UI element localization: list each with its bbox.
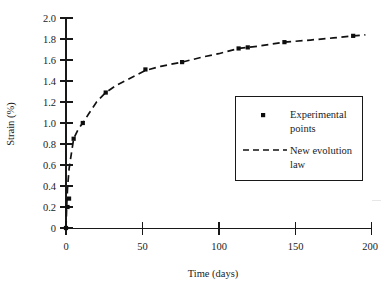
data-point-marker (282, 40, 286, 44)
data-point-marker (104, 90, 108, 94)
legend-label-evolution-line1: New evolution (290, 145, 353, 156)
y-tick-label: 1.2 (43, 97, 56, 108)
y-tick-label: 0.8 (43, 139, 56, 150)
x-tick-label: 100 (211, 241, 227, 252)
chart-figure: 2.0 1.8 1.6 1.4 1.2 1.0 0.8 0.6 0.4 0.2 … (0, 0, 386, 292)
x-tick-label: 150 (288, 241, 304, 252)
legend-label-experimental-line1: Experimental (290, 109, 347, 120)
y-tick-label: 1.8 (43, 34, 56, 45)
x-tick-label: 200 (362, 241, 378, 252)
y-axis-title: Strain (%) (5, 102, 17, 146)
data-point-marker (143, 67, 147, 71)
data-point-marker (65, 205, 69, 209)
strain-vs-time-chart: 2.0 1.8 1.6 1.4 1.2 1.0 0.8 0.6 0.4 0.2 … (0, 0, 386, 292)
data-point-marker (180, 60, 184, 64)
x-axis-tick-labels: 0 50 100 150 200 (63, 241, 378, 252)
data-point-marker (351, 34, 355, 38)
y-tick-label: 1.4 (43, 76, 57, 87)
y-tick-label: 0.4 (43, 181, 57, 192)
legend-label-experimental-line2: points (290, 123, 316, 134)
data-point-marker (246, 45, 250, 49)
y-tick-label: 0 (51, 223, 56, 234)
x-tick-label: 50 (137, 241, 148, 252)
y-tick-label: 0.2 (43, 202, 56, 213)
y-tick-label: 1.6 (43, 55, 56, 66)
y-tick-label: 1.0 (43, 118, 56, 129)
data-point-marker (81, 121, 85, 125)
data-point-marker (237, 46, 241, 50)
y-axis-tick-labels: 2.0 1.8 1.6 1.4 1.2 1.0 0.8 0.6 0.4 0.2 … (43, 13, 57, 234)
square-marker-icon (261, 113, 265, 117)
x-axis-title: Time (days) (188, 268, 239, 280)
data-point-marker (67, 197, 71, 201)
data-point-marker (64, 226, 68, 230)
y-tick-label: 0.6 (43, 160, 56, 171)
chart-legend: Experimental points New evolution law (236, 97, 363, 181)
y-tick-label: 2.0 (43, 13, 56, 24)
data-point-marker (72, 137, 76, 141)
legend-label-evolution-line2: law (290, 159, 306, 170)
x-tick-label: 0 (63, 241, 68, 252)
